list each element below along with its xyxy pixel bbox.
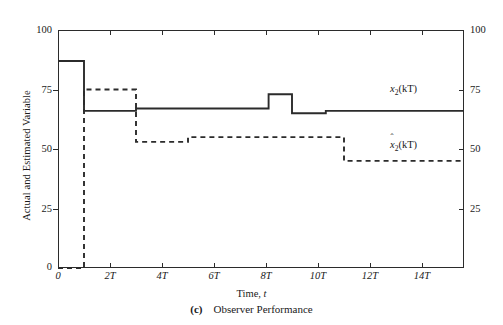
series-label-estimated-arg: (kT) [398, 139, 417, 150]
x-tick-label-8T: 8T [246, 270, 286, 281]
y-tick-label-right-25: 25 [470, 204, 503, 214]
y-tick-mark-left-25 [53, 209, 58, 210]
x-axis-title-ital: t [264, 288, 267, 299]
x-tick-label-6T: 6T [194, 270, 234, 281]
y-tick-mark-right-25 [459, 209, 464, 210]
x-tick-mark-8T [266, 263, 267, 268]
x-tick-mark-10T [318, 263, 319, 268]
caption-text: Observer Performance [213, 303, 312, 315]
x-tick-mark-top-2T [110, 30, 111, 35]
x-tick-mark-top-12T [370, 30, 371, 35]
x-tick-label-12T: 12T [350, 270, 390, 281]
figure-caption: (c)Observer Performance [0, 303, 503, 315]
x-axis-title: Time, t [0, 288, 503, 299]
x-axis-title-rom: Time, [237, 288, 264, 299]
y-tick-mark-left-75 [53, 90, 58, 91]
series-label-actual: x2(kT) [390, 83, 417, 97]
x-tick-label-2T: 2T [90, 270, 130, 281]
y-tick-label-right-50: 50 [470, 144, 503, 154]
hat-accent-icon: ˆ [391, 132, 394, 142]
y-tick-label-right-75: 75 [470, 85, 503, 95]
y-tick-label-left-100: 100 [12, 25, 52, 35]
y-tick-mark-right-50 [459, 149, 464, 150]
y-tick-mark-right-75 [459, 90, 464, 91]
x-tick-label-10T: 10T [298, 270, 338, 281]
x-tick-mark-4T [162, 263, 163, 268]
y-tick-label-left-50: 50 [12, 144, 52, 154]
y-tick-label-left-75: 75 [12, 85, 52, 95]
y-tick-label-right-100: 100 [470, 25, 503, 35]
x-tick-mark-6T [214, 263, 215, 268]
series-label-estimated: ˆx2(kT) [390, 139, 417, 153]
x-tick-mark-top-10T [318, 30, 319, 35]
y-tick-mark-left-50 [53, 149, 58, 150]
series-label-actual-arg: (kT) [398, 83, 417, 94]
x-tick-mark-top-8T [266, 30, 267, 35]
figure-observer-performance: Actual and Estimated Variable 100 75 50 … [0, 0, 503, 325]
x-tick-label-4T: 4T [142, 270, 182, 281]
x-tick-mark-12T [370, 263, 371, 268]
series-label-estimated-base: ˆx [390, 139, 395, 150]
y-tick-label-left-25: 25 [12, 204, 52, 214]
x-tick-mark-2T [110, 263, 111, 268]
x-tick-mark-top-14T [422, 30, 423, 35]
x-tick-label-0: 0 [38, 270, 78, 281]
x-tick-label-14T: 14T [402, 270, 442, 281]
caption-index: (c) [190, 303, 202, 315]
x-tick-mark-top-6T [214, 30, 215, 35]
x-tick-mark-14T [422, 263, 423, 268]
x-tick-mark-top-4T [162, 30, 163, 35]
